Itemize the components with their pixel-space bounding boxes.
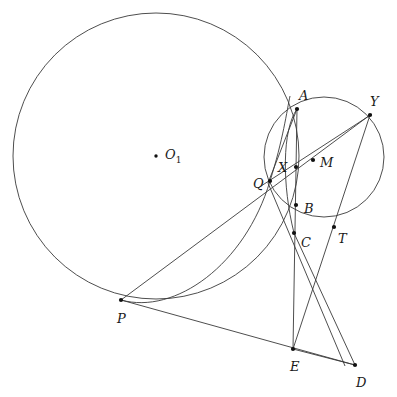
label-O1-letter: O (165, 147, 176, 162)
point-dot-M (311, 158, 315, 162)
point-dot-Q (268, 179, 272, 183)
label-X: X (278, 161, 287, 174)
label-A: A (299, 89, 308, 102)
point-dot-C (292, 231, 296, 235)
point-dot-D (353, 363, 357, 367)
label-O1: O1 (165, 148, 181, 165)
label-D: D (356, 376, 366, 389)
line-Q-Y (258, 114, 372, 188)
line-A-E (293, 109, 297, 349)
line-P-Y (121, 115, 370, 300)
point-dot-B (294, 203, 298, 207)
line-E-D (293, 349, 355, 365)
label-M: M (320, 156, 333, 169)
label-O1-subscript: 1 (176, 155, 182, 165)
label-B: B (304, 202, 314, 215)
geometry-figure: O1AYXMQBTCPED (0, 0, 397, 397)
point-dot-P (119, 298, 123, 302)
label-C: C (301, 236, 311, 249)
line-P-D (121, 300, 355, 365)
point-dot-T (332, 225, 336, 229)
point-dot-X (294, 165, 298, 169)
label-Y: Y (370, 95, 379, 108)
figure-canvas (0, 0, 397, 397)
point-dot-A (295, 107, 299, 111)
label-Q: Q (253, 177, 264, 190)
point-dot-E (291, 347, 295, 351)
arc-through-P-Q (121, 96, 290, 303)
point-dot-O1 (154, 154, 157, 157)
label-P: P (117, 312, 126, 325)
point-dot-Y (368, 113, 372, 117)
label-T: T (338, 232, 347, 245)
label-E: E (290, 360, 300, 373)
